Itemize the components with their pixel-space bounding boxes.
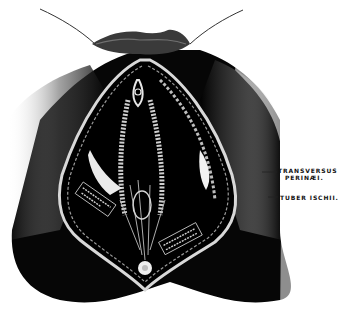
- label-transversus-line1: TRANSVERSUS: [278, 167, 337, 174]
- label-tuber-ischii: TUBER ISCHII.: [280, 194, 339, 201]
- label-transversus-perinaei: TRANSVERSUS PERINÆI.: [278, 167, 337, 181]
- label-transversus-line2: PERINÆI.: [278, 174, 337, 181]
- anatomical-illustration: [0, 0, 339, 315]
